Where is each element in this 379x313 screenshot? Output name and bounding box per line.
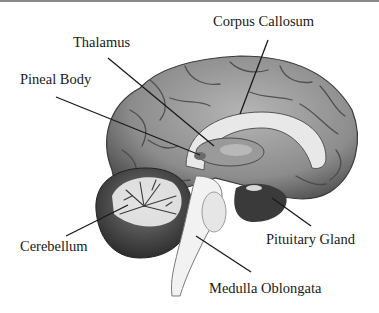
label-pituitary-gland: Pituitary Gland bbox=[266, 232, 355, 247]
label-thalamus: Thalamus bbox=[73, 35, 130, 50]
label-medulla-oblongata: Medulla Oblongata bbox=[209, 281, 321, 296]
label-cerebellum: Cerebellum bbox=[20, 239, 88, 254]
cerebellum-illustration bbox=[96, 168, 192, 258]
label-corpus-callosum: Corpus Callosum bbox=[213, 14, 314, 29]
leader-medulla-oblongata bbox=[196, 236, 251, 272]
label-pineal-body: Pineal Body bbox=[20, 72, 91, 87]
brain-illustration bbox=[0, 0, 379, 313]
